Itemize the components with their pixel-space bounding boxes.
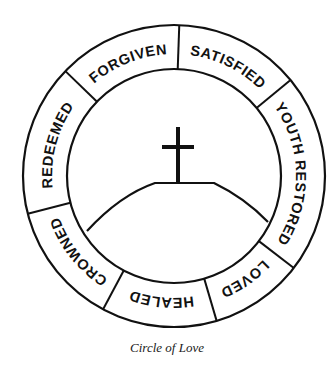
segment-label-healed: HEALED — [127, 287, 195, 311]
segment-divider — [178, 25, 180, 69]
segment-label-youth-restored: YOUTH RESTORED — [272, 99, 309, 248]
segment-labels: FORGIVENSATISFIEDYOUTH RESTOREDLOVEDHEAL… — [39, 41, 309, 311]
segment-divider — [204, 279, 216, 321]
hill-shape — [87, 183, 268, 231]
figure-caption: Circle of Love — [0, 340, 334, 356]
cross-icon — [162, 127, 194, 183]
segment-divider — [28, 203, 71, 214]
circle-of-love-diagram: FORGIVENSATISFIEDYOUTH RESTOREDLOVEDHEAL… — [0, 0, 334, 366]
segment-label-loved: LOVED — [218, 257, 272, 301]
inner-circle — [67, 69, 281, 283]
outer-circle — [23, 25, 325, 327]
